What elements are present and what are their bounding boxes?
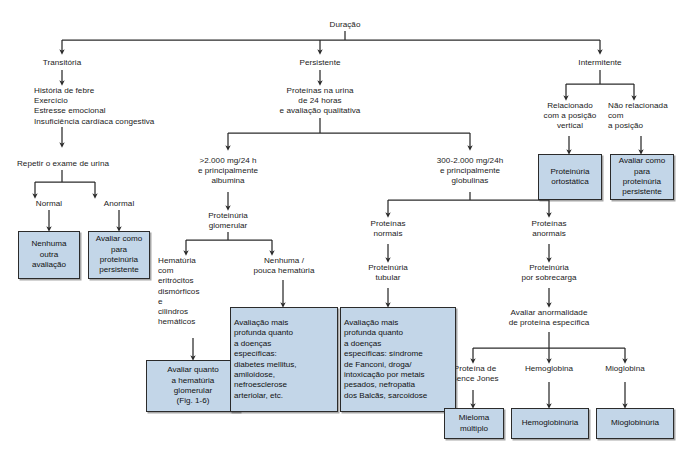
node-intermitente: Intermitente — [560, 58, 640, 68]
node-hematuria-dismorfica: Hematúria com eritrócitos dismórficos e … — [158, 256, 228, 327]
node-persistente: Persistente — [280, 58, 360, 68]
box-avaliar-como-proteinuria-persistente-right: Avaliar como para proteinúria persistent… — [610, 154, 674, 200]
node-normal: Normal — [15, 199, 83, 209]
flowchart-diagram: Duração Transitória Persistente Intermit… — [0, 0, 689, 452]
node-300-2000-mg: 300-2.000 mg/24h e principalmente globul… — [408, 156, 532, 187]
node-nao-relacionado-posicao: Não relacionada com a posição — [608, 101, 686, 132]
box-mieloma-multiplo: Mieloma múltiplo — [444, 408, 504, 439]
node-causas-transitorias: História de febre Exercício Estresse emo… — [34, 86, 234, 127]
node-proteinas-anormais: Proteínas anormais — [509, 219, 589, 239]
box-avaliacao-doencas-especificas-glomerular: Avaliação mais profunda quanto a doenças… — [230, 307, 338, 412]
node-proteinas-normais: Proteínas normais — [348, 219, 428, 239]
box-avaliar-hematuria-glomerular: Avaliar quanto a hematúria glomerular (F… — [146, 360, 240, 412]
node-repetir-exame-urina: Repetir o exame de urina — [4, 159, 122, 169]
node-proteinas-urina-24h: Proteínas na urina de 24 horas e avaliaç… — [258, 86, 382, 117]
node-proteinuria-sobrecarga: Proteinúria por sobrecarga — [497, 263, 601, 283]
node-avaliar-anormalidade-proteina: Avaliar anormalidade de proteína específ… — [489, 308, 609, 328]
node-transitoria: Transitória — [22, 58, 102, 68]
box-hemoglobinuria: Hemoglobinúria — [511, 408, 589, 439]
box-avaliar-como-proteinuria-persistente-left: Avaliar como para proteinúria persistent… — [88, 231, 150, 279]
box-mioglobinuria: Mioglobinúria — [596, 408, 674, 439]
box-nenhuma-outra-avaliacao: Nenhuma outra avaliação — [18, 231, 80, 279]
node-relacionado-posicao-vertical: Relacionado com a posição vertical — [527, 101, 613, 132]
node-nenhuma-pouca-hematuria: Nenhuma / pouca hematúria — [236, 256, 332, 276]
node-proteinuria-tubular: Proteinúria tubular — [348, 263, 428, 283]
node-hemoglobina: Hemoglobina — [511, 364, 587, 374]
node-proteinuria-glomerular: Proteinúria glomerular — [186, 211, 270, 231]
node-mioglobina: Mioglobina — [589, 364, 661, 374]
box-avaliacao-doencas-especificas-tubular: Avaliação mais profunda quanto a doenças… — [340, 307, 456, 412]
node-root-duracao: Duração — [305, 20, 385, 30]
box-proteinuria-ortostatica: Proteinúria ortostática — [538, 154, 602, 200]
node-maior-2000-mg: >2.000 mg/24 h e principalmente albumina — [170, 156, 286, 187]
node-anormal: Anormal — [85, 199, 153, 209]
